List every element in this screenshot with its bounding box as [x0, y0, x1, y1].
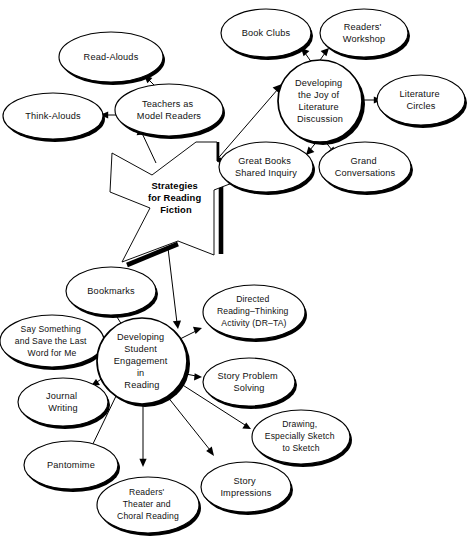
- node-read-alouds[interactable]: Read-Alouds: [59, 32, 165, 85]
- node-shape: [203, 358, 295, 406]
- node-shape: [18, 378, 108, 426]
- node-directed-reading[interactable]: Directed Reading–Thinking Activity (DR–T…: [203, 285, 307, 342]
- node-bookmarks[interactable]: Bookmarks: [66, 267, 158, 318]
- arrowhead-icon: [206, 447, 214, 456]
- node-shape: [201, 462, 291, 512]
- node-shape: [115, 84, 223, 136]
- arrowhead-icon: [193, 327, 202, 334]
- arrowhead-icon: [173, 321, 181, 330]
- node-book-clubs[interactable]: Book Clubs: [221, 9, 313, 60]
- node-developing-joy[interactable]: Developing the Joy of Literature Discuss…: [278, 60, 365, 145]
- node-great-books[interactable]: Great Books Shared Inquiry: [219, 142, 315, 195]
- arrowhead-icon: [242, 422, 251, 429]
- arrowhead-icon: [321, 48, 329, 56]
- node-literature-circles[interactable]: Literature Circles: [377, 75, 467, 128]
- diagram-canvas: Strategies for Reading Fiction Read-Alou…: [0, 0, 475, 546]
- node-shape: [377, 75, 465, 125]
- node-label: Book Clubs: [242, 28, 291, 38]
- node-label: Bookmarks: [87, 286, 135, 296]
- node-drawing-sketch[interactable]: Drawing, Especially Sketch to Sketch: [252, 410, 352, 467]
- node-shape: [219, 142, 313, 192]
- node-shape: [320, 9, 408, 57]
- node-say-something[interactable]: Say Something and Save the Last Word for…: [0, 315, 106, 370]
- edge-engagement-to-readers-theater: [139, 400, 146, 467]
- node-shape: [278, 60, 362, 142]
- node-developing-engagement[interactable]: Developing Student Engagement in Reading: [97, 318, 190, 407]
- node-label: Read-Alouds: [84, 52, 139, 62]
- node-pantomime[interactable]: Pantomime: [24, 441, 120, 492]
- arrowhead-icon: [139, 459, 146, 467]
- node-teachers-as-model-readers[interactable]: Teachers as Model Readers: [115, 84, 225, 139]
- edge-engagement-to-story-impressions: [167, 396, 214, 456]
- star-label-line-1: Strategies: [151, 180, 197, 191]
- concept-map-svg: Strategies for Reading Fiction Read-Alou…: [0, 0, 475, 546]
- node-readers-workshop[interactable]: Readers' Workshop: [320, 9, 410, 60]
- node-shape: [319, 142, 411, 192]
- star-label-line-3: Fiction: [160, 204, 192, 215]
- node-label: Think-Alouds: [25, 111, 81, 121]
- node-journal-writing[interactable]: Journal Writing: [18, 378, 110, 429]
- node-story-impressions[interactable]: Story Impressions: [201, 462, 293, 515]
- star-label-line-2: for Reading: [148, 192, 201, 203]
- node-grand-conversations[interactable]: Grand Conversations: [319, 142, 413, 195]
- arrowhead-icon: [306, 147, 314, 155]
- edge-star-to-engagement: [168, 248, 181, 329]
- node-think-alouds[interactable]: Think-Alouds: [3, 93, 105, 142]
- arrowhead-icon: [194, 373, 202, 380]
- node-label: Pantomime: [47, 460, 95, 470]
- node-readers-theater[interactable]: Readers' Theater and Choral Reading: [97, 477, 201, 536]
- node-story-problem-solving[interactable]: Story Problem Solving: [203, 358, 297, 409]
